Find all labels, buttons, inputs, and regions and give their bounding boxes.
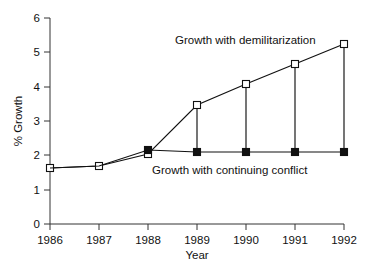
y-tick-label-6: 6 [34,12,40,24]
annotation-continuing-conflict: Growth with continuing conflict [152,164,308,176]
y-tick-label-2: 2 [34,149,40,161]
marker-open-1991 [292,61,299,68]
marker-filled-1989 [194,149,201,156]
marker-open-1992 [341,41,348,48]
y-tick-label-1: 1 [34,184,40,196]
chart-container: 6 5 4 3 2 1 0 1986 1987 1988 1989 1990 1… [0,0,366,269]
x-axis-ticks [50,224,344,230]
y-tick-label-3: 3 [34,115,40,127]
x-tick-label-1992: 1992 [331,234,357,246]
marker-filled-1988 [145,147,152,154]
line-chart-plot: 6 5 4 3 2 1 0 1986 1987 1988 1989 1990 1… [0,0,366,269]
y-tick-label-0: 0 [34,218,40,230]
y-tick-label-4: 4 [34,81,41,93]
marker-filled-1992 [341,149,348,156]
annotation-demilitarization: Growth with demilitarization [175,34,316,46]
drop-lines-group [197,44,344,152]
x-tick-label-1987: 1987 [86,234,112,246]
x-tick-label-1991: 1991 [282,234,308,246]
y-tick-label-5: 5 [34,46,40,58]
x-tick-label-1989: 1989 [184,234,210,246]
marker-open-1989 [194,102,201,109]
x-tick-label-1988: 1988 [135,234,161,246]
x-axis-title: Year [185,249,208,261]
y-axis-title: % Growth [12,96,24,147]
x-tick-label-1986: 1986 [37,234,63,246]
y-axis-ticks [44,18,50,224]
x-tick-label-1990: 1990 [233,234,259,246]
x-axis-tick-labels: 1986 1987 1988 1989 1990 1991 1992 [37,234,357,246]
marker-filled-1991 [292,149,299,156]
marker-filled-1990 [243,149,250,156]
marker-open-1990 [243,81,250,88]
y-axis-tick-labels: 6 5 4 3 2 1 0 [34,12,41,230]
